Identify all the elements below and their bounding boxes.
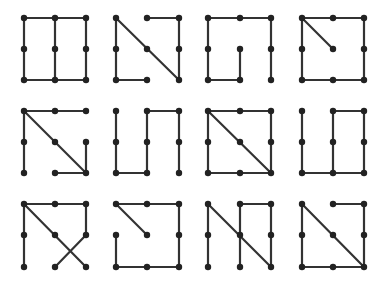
grid-dot <box>176 264 182 270</box>
figure-10 <box>113 201 182 270</box>
grid-dot <box>113 77 119 83</box>
grid-dot <box>83 170 89 176</box>
grid-dot <box>205 139 211 145</box>
grid-dot <box>52 139 58 145</box>
grid-dot <box>205 108 211 114</box>
grid-dot <box>237 264 243 270</box>
grid-dot <box>268 15 274 21</box>
grid-dot <box>330 201 336 207</box>
grid-dot <box>52 201 58 207</box>
grid-dot <box>52 170 58 176</box>
grid-dot <box>83 108 89 114</box>
grid-dot <box>21 201 27 207</box>
grid-dot <box>52 46 58 52</box>
grid-dot <box>176 15 182 21</box>
figure-4 <box>299 15 367 83</box>
grid-dot <box>205 170 211 176</box>
grid-dot <box>52 232 58 238</box>
grid-dot <box>268 201 274 207</box>
grid-dot <box>299 139 305 145</box>
grid-dot <box>330 108 336 114</box>
grid-dot <box>52 77 58 83</box>
grid-dot <box>237 46 243 52</box>
grid-dot <box>330 46 336 52</box>
grid-dot <box>144 264 150 270</box>
grid-dot <box>361 170 367 176</box>
grid-dot <box>268 264 274 270</box>
grid-dot <box>144 201 150 207</box>
grid-dot <box>361 46 367 52</box>
grid-dot <box>113 170 119 176</box>
grid-dot <box>268 108 274 114</box>
grid-dot <box>21 15 27 21</box>
grid-dot <box>113 15 119 21</box>
grid-dot <box>361 108 367 114</box>
grid-dot <box>299 170 305 176</box>
grid-dot <box>144 108 150 114</box>
grid-dot <box>21 108 27 114</box>
grid-dot <box>237 139 243 145</box>
grid-dot <box>52 15 58 21</box>
grid-dot <box>113 46 119 52</box>
grid-dot <box>205 201 211 207</box>
grid-dot <box>83 232 89 238</box>
grid-dot <box>299 77 305 83</box>
grid-dot <box>330 232 336 238</box>
grid-dot <box>176 139 182 145</box>
grid-dot <box>144 139 150 145</box>
grid-dot <box>52 108 58 114</box>
grid-dot <box>113 201 119 207</box>
grid-dot <box>21 77 27 83</box>
figure-6 <box>113 108 182 176</box>
grid-dot <box>21 264 27 270</box>
grid-dot <box>113 108 119 114</box>
grid-dot <box>268 139 274 145</box>
figure-edge <box>302 18 333 49</box>
grid-dot <box>205 46 211 52</box>
grid-dot <box>361 232 367 238</box>
grid-dot <box>361 15 367 21</box>
grid-dot <box>176 201 182 207</box>
grid-dot <box>144 232 150 238</box>
grid-dot <box>113 139 119 145</box>
grid-dot <box>237 170 243 176</box>
grid-dot <box>299 108 305 114</box>
figure-2 <box>113 15 182 83</box>
grid-dot <box>144 15 150 21</box>
grid-dot <box>205 15 211 21</box>
figure-12 <box>299 201 367 270</box>
grid-dot <box>268 46 274 52</box>
grid-dot <box>113 264 119 270</box>
grid-dot <box>83 139 89 145</box>
figure-5 <box>21 108 89 176</box>
grid-dot <box>237 201 243 207</box>
grid-dot <box>268 232 274 238</box>
grid-dot <box>21 170 27 176</box>
grid-dot <box>330 170 336 176</box>
grid-dot <box>144 46 150 52</box>
figure-3 <box>205 15 274 83</box>
grid-dot <box>330 77 336 83</box>
grid-dot <box>83 77 89 83</box>
grid-dot <box>361 264 367 270</box>
grid-dot <box>205 77 211 83</box>
grid-dot <box>299 264 305 270</box>
grid-dot <box>361 139 367 145</box>
grid-dot <box>83 264 89 270</box>
grid-dot <box>83 201 89 207</box>
grid-dot <box>113 232 119 238</box>
grid-dot <box>52 264 58 270</box>
dot-grid-figures-diagram <box>0 0 388 283</box>
grid-dot <box>176 108 182 114</box>
grid-dot <box>83 15 89 21</box>
figure-9 <box>21 201 89 270</box>
grid-dot <box>21 139 27 145</box>
grid-dot <box>330 15 336 21</box>
grid-dot <box>176 46 182 52</box>
grid-dot <box>237 77 243 83</box>
grid-dot <box>176 77 182 83</box>
figure-1 <box>21 15 89 83</box>
grid-dot <box>176 232 182 238</box>
grid-dot <box>205 264 211 270</box>
grid-dot <box>330 264 336 270</box>
